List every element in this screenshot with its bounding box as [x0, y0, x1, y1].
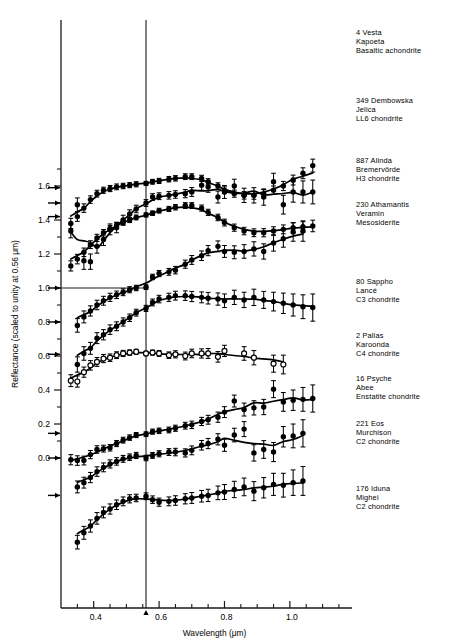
y-tick-label: 1.6	[38, 181, 50, 191]
data-point-open	[222, 348, 227, 353]
data-point	[107, 327, 112, 332]
data-point	[166, 269, 171, 274]
data-point	[150, 300, 155, 305]
data-point-open	[134, 349, 139, 354]
data-point	[199, 494, 204, 499]
data-point	[300, 228, 305, 233]
data-point	[189, 422, 194, 427]
data-point	[271, 179, 276, 184]
data-point	[150, 179, 155, 184]
data-point	[241, 484, 246, 489]
data-point	[199, 295, 204, 300]
data-point	[251, 193, 256, 198]
data-point	[156, 271, 161, 276]
data-point	[88, 475, 93, 480]
data-point	[88, 259, 93, 264]
data-point	[183, 496, 188, 501]
data-point	[94, 191, 99, 196]
figure-panel: 0.40.60.81.00.00.20.40.60.81.01.21.41.6W…	[0, 0, 453, 640]
data-point	[114, 502, 119, 507]
data-point-open	[281, 362, 286, 367]
data-point	[143, 494, 148, 499]
data-point	[81, 351, 86, 356]
data-point	[222, 443, 227, 448]
data-point	[271, 240, 276, 245]
data-point	[81, 530, 86, 535]
data-point	[75, 458, 80, 463]
data-point	[134, 182, 139, 187]
data-point	[81, 314, 86, 319]
data-point-open	[88, 363, 93, 368]
legend-entry-dembowska: 349 Dembowska Jelica LL6 chondrite	[356, 97, 413, 124]
data-point	[150, 429, 155, 434]
data-point	[134, 310, 139, 315]
data-point	[222, 249, 227, 254]
data-point	[205, 417, 210, 422]
data-point-open	[94, 359, 99, 364]
y-tick-label: 0.4	[38, 385, 50, 395]
data-point	[68, 228, 73, 233]
data-point	[75, 202, 80, 207]
series-2-pallas	[68, 345, 286, 387]
data-point	[68, 263, 73, 268]
legend-line-3: C3 chondrite	[356, 296, 400, 305]
data-point-open	[144, 351, 149, 356]
data-point	[81, 258, 86, 263]
data-point	[232, 225, 237, 230]
x-axis-title: Wavelength (μm)	[183, 628, 247, 638]
data-point	[310, 189, 315, 194]
data-point	[251, 295, 256, 300]
data-point	[127, 454, 132, 459]
data-point	[281, 483, 286, 488]
data-point	[75, 362, 80, 367]
data-point-open	[189, 351, 194, 356]
data-point	[120, 499, 125, 504]
data-point	[173, 498, 178, 503]
series-176-iduna	[75, 467, 306, 549]
data-point	[232, 398, 237, 403]
data-point	[156, 451, 161, 456]
data-point	[81, 458, 86, 463]
legend-entry-vesta: 4 Vesta Kapoeta Basaltic achondrite	[356, 29, 421, 56]
data-point	[150, 211, 155, 216]
data-point	[205, 248, 210, 253]
data-point	[88, 452, 93, 457]
data-point	[261, 230, 266, 235]
data-point	[215, 415, 220, 420]
legend-line-3: LL6 chondrite	[356, 115, 413, 124]
y-axis-title: Reflectance (scaled to unity at 0.56 μm)	[10, 240, 20, 388]
data-point	[94, 244, 99, 249]
data-point	[205, 441, 210, 446]
legend-line-3: Enstatite chondrite	[356, 393, 420, 402]
data-point	[88, 346, 93, 351]
data-point	[290, 229, 295, 234]
data-point	[205, 184, 210, 189]
data-point	[127, 211, 132, 216]
data-point-open	[183, 354, 188, 359]
data-point	[166, 193, 171, 198]
data-point	[75, 539, 80, 544]
fit-curve-221-eos	[77, 435, 303, 482]
data-point	[189, 294, 194, 299]
data-point	[300, 478, 305, 483]
data-point	[290, 480, 295, 485]
data-point-open	[251, 355, 256, 360]
data-point	[143, 200, 148, 205]
data-point	[114, 225, 119, 230]
legend-entry-athamantis: 230 Athamantis Veramin Mesosiderite	[356, 201, 409, 228]
data-point	[189, 257, 194, 262]
data-point	[183, 203, 188, 208]
data-point	[205, 493, 210, 498]
data-point	[166, 427, 171, 432]
data-point	[101, 465, 106, 470]
legend-line-3: Basaltic achondrite	[356, 47, 421, 56]
data-point	[261, 297, 266, 302]
data-point	[94, 447, 99, 452]
data-point-open	[206, 351, 211, 356]
series-221-eos	[75, 420, 306, 493]
data-point	[222, 409, 227, 414]
data-point	[199, 205, 204, 210]
fit-curve-80-sappho	[77, 296, 312, 355]
data-point	[310, 163, 315, 168]
data-point	[120, 290, 125, 295]
